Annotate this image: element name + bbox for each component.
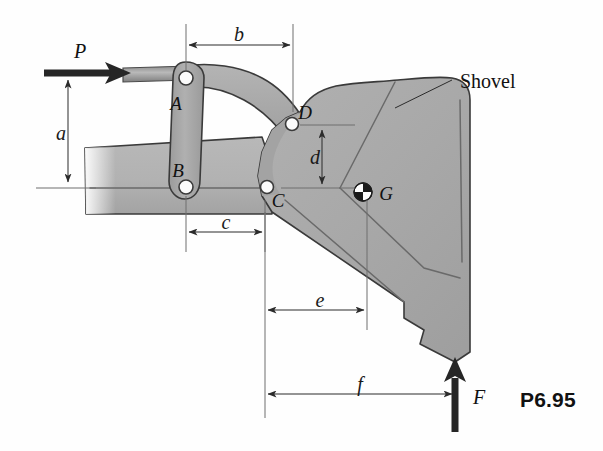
pin-label-b: B [172, 160, 184, 181]
centroid-marker-g [354, 183, 372, 201]
pin-label-a: A [168, 93, 182, 114]
dimension-label-c: c [222, 211, 231, 233]
dimension-label-a: a [56, 122, 66, 144]
centroid-label-g: G [379, 183, 393, 204]
figure-number: P6.95 [520, 388, 576, 411]
pin-hole-a [179, 71, 193, 85]
pin-label-d: D [297, 102, 312, 123]
force-label-f: F [472, 386, 486, 408]
pin-hole-d [286, 118, 299, 131]
force-label-p: P [73, 40, 86, 62]
dimension-label-b: b [234, 23, 244, 45]
force-arrow-p [44, 62, 131, 84]
shovel-body [258, 77, 470, 362]
dimension-label-e: e [316, 289, 325, 311]
dimension-label-f: f [357, 373, 365, 396]
diagram-canvas: a b c d e [0, 0, 603, 451]
part-label-shovel: Shovel [460, 70, 516, 92]
dimension-label-d: d [310, 146, 321, 168]
pin-label-c: C [272, 190, 285, 211]
figure-container: a b c d e [0, 0, 603, 451]
pin-hole-b [179, 180, 193, 194]
